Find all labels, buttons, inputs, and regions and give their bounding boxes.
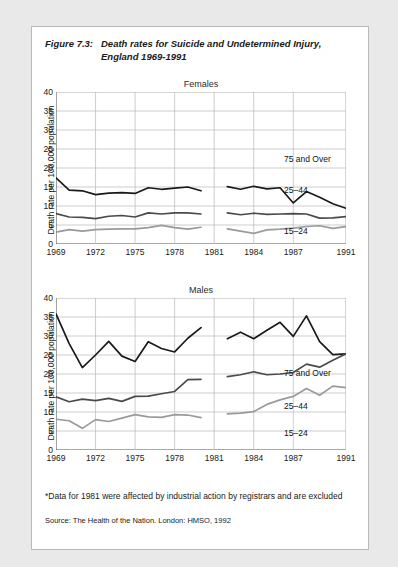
chart-panel-males: Males Death rate per 100,000 population … bbox=[32, 285, 370, 481]
y-axis-tick-label: 30 bbox=[44, 125, 53, 135]
footnote-text: *Data for 1981 were affected by industri… bbox=[45, 491, 343, 501]
series-legend-label: 75 and Over bbox=[284, 154, 331, 164]
y-axis-tick-label: 20 bbox=[44, 163, 53, 173]
figure-title: Death rates for Suicide and Undetermined… bbox=[101, 37, 351, 63]
y-axis-tick-label: 40 bbox=[44, 293, 53, 303]
series-legend-label: 15–24 bbox=[284, 226, 308, 236]
x-axis-tick-label: 1991 bbox=[337, 453, 356, 463]
figure-number: Figure 7.3: bbox=[45, 37, 101, 50]
y-axis-tick-label: 25 bbox=[44, 144, 53, 154]
panel-title-females: Females bbox=[32, 79, 370, 89]
series-legend-label: 15–24 bbox=[284, 428, 308, 438]
plot-area-females: 0510152025303540196919721975197819811984… bbox=[56, 92, 346, 244]
series-line bbox=[56, 225, 201, 232]
x-axis-tick-label: 1969 bbox=[47, 247, 66, 257]
y-axis-tick-label: 35 bbox=[44, 312, 53, 322]
x-axis-tick-label: 1987 bbox=[284, 247, 303, 257]
series-legend-label: 25–44 bbox=[284, 185, 308, 195]
y-axis-tick-label: 20 bbox=[44, 369, 53, 379]
series-line bbox=[56, 379, 201, 401]
y-axis-tick-label: 25 bbox=[44, 350, 53, 360]
y-axis-tick-label: 40 bbox=[44, 87, 53, 97]
series-line bbox=[56, 415, 201, 429]
x-axis-tick-label: 1972 bbox=[86, 453, 105, 463]
x-axis-tick-label: 1978 bbox=[165, 453, 184, 463]
series-legend-label: 25–44 bbox=[284, 401, 308, 411]
figure-page: Figure 7.3: Death rates for Suicide and … bbox=[31, 26, 369, 550]
x-axis-tick-label: 1984 bbox=[244, 247, 263, 257]
y-axis-tick-label: 10 bbox=[44, 407, 53, 417]
series-line bbox=[56, 314, 201, 368]
y-axis-tick-label: 10 bbox=[44, 201, 53, 211]
y-axis-tick-label: 5 bbox=[48, 426, 53, 436]
series-line bbox=[56, 178, 201, 195]
source-text: Source: The Health of the Nation. London… bbox=[45, 516, 231, 525]
series-line bbox=[227, 316, 346, 355]
x-axis-tick-label: 1991 bbox=[337, 247, 356, 257]
panel-title-males: Males bbox=[32, 285, 370, 295]
y-axis-tick-label: 15 bbox=[44, 182, 53, 192]
figure-title-block: Figure 7.3: Death rates for Suicide and … bbox=[45, 37, 361, 63]
x-axis-tick-label: 1978 bbox=[165, 247, 184, 257]
series-line bbox=[56, 213, 201, 219]
y-axis-tick-label: 35 bbox=[44, 106, 53, 116]
series-legend-label: 75 and Over bbox=[284, 368, 331, 378]
y-axis-tick-label: 5 bbox=[48, 220, 53, 230]
y-axis-tick-label: 15 bbox=[44, 388, 53, 398]
plot-area-males: 0510152025303540196919721975197819811984… bbox=[56, 298, 346, 450]
x-axis-tick-label: 1969 bbox=[47, 453, 66, 463]
x-axis-tick-label: 1972 bbox=[86, 247, 105, 257]
x-axis-tick-label: 1987 bbox=[284, 453, 303, 463]
chart-panel-females: Females Death rate per 100,000 populatio… bbox=[32, 79, 370, 275]
x-axis-tick-label: 1981 bbox=[205, 453, 224, 463]
x-axis-tick-label: 1975 bbox=[126, 453, 145, 463]
chart-svg bbox=[56, 92, 346, 244]
x-axis-tick-label: 1984 bbox=[244, 453, 263, 463]
y-axis-tick-label: 30 bbox=[44, 331, 53, 341]
x-axis-tick-label: 1981 bbox=[205, 247, 224, 257]
x-axis-tick-label: 1975 bbox=[126, 247, 145, 257]
series-line bbox=[227, 213, 346, 218]
